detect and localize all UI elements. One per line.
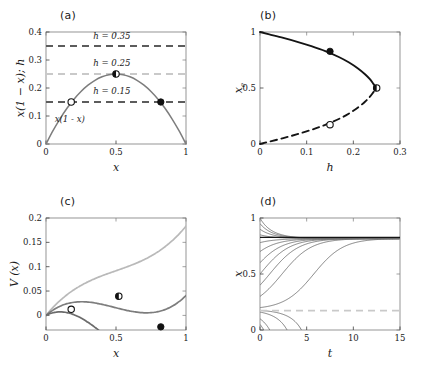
- panel-a: (a) 00.5100.10.20.30.4xx(1 − x); hh = 0.…: [0, 0, 213, 191]
- x-tick-label: 0.2: [347, 147, 361, 157]
- y-tick-label: 1: [251, 27, 256, 37]
- panel-d: (d) 05101500.51tx: [212, 190, 425, 381]
- annotation-2: h = 0.15: [93, 86, 130, 96]
- x-tick-label: 0.1: [300, 147, 314, 157]
- x-axis-label: x: [113, 347, 120, 360]
- trajectory-10: [260, 239, 400, 308]
- y-axis-label: V (x): [8, 261, 21, 287]
- x-tick-label: 1: [183, 147, 188, 157]
- y-axis-label: x(1 − x); h: [14, 59, 27, 118]
- stable-branch-curve: [260, 32, 377, 88]
- y-tick-label: 0: [37, 310, 42, 320]
- y-tick-label: 0.05: [23, 286, 42, 296]
- y-tick-label: 0.2: [28, 83, 42, 93]
- trajectory-8: [260, 239, 400, 286]
- y-tick-label: 1: [251, 213, 256, 223]
- equilibrium-marker-0: [68, 99, 74, 105]
- annotation-1: h = 0.25: [93, 58, 130, 68]
- y-tick-label: 0.3: [28, 55, 42, 65]
- panel-b: (b) 00.10.20.300.51hxe: [212, 0, 425, 191]
- y-tick-label: 0: [251, 325, 256, 335]
- axes-(d): 05101500.51tx: [232, 213, 405, 360]
- panel-b-label: (b): [260, 9, 276, 22]
- panel-d-plot: 05101500.51tx: [212, 190, 425, 381]
- x-tick-label: 0: [257, 147, 262, 157]
- x-tick-label: 0.5: [109, 333, 123, 343]
- y-tick-label: 0: [37, 139, 42, 149]
- y-tick-label: 0.2: [28, 213, 42, 223]
- x-tick-label: 10: [348, 333, 359, 343]
- bifurcation-marker-1: [327, 121, 333, 127]
- panel-c-label: (c): [60, 195, 75, 208]
- x-tick-label: 1: [183, 333, 188, 343]
- unstable-branch-curve: [260, 88, 377, 144]
- y-tick-label: 0.15: [23, 237, 42, 247]
- figure-container: (a) 00.5100.10.20.30.4xx(1 − x); hh = 0.…: [0, 0, 425, 381]
- x-tick-label: 0: [43, 147, 48, 157]
- x-tick-label: 0: [43, 333, 48, 343]
- x-tick-label: 15: [395, 333, 406, 343]
- x-tick-label: 0: [257, 333, 262, 343]
- axes-(a): 00.5100.10.20.30.4xx(1 − x); hh = 0.35h …: [14, 27, 189, 174]
- potential-marker-1: [158, 324, 164, 330]
- potential-marker-0: [68, 306, 74, 312]
- annotation-0: h = 0.35: [93, 31, 130, 41]
- equilibrium-marker-1: [158, 99, 164, 105]
- x-axis-label: x: [113, 161, 120, 174]
- x-axis-label: h: [326, 161, 333, 174]
- panel-d-label: (d): [260, 195, 276, 208]
- panel-a-plot: 00.5100.10.20.30.4xx(1 − x); hh = 0.35h …: [0, 0, 213, 191]
- trajectory-9: [260, 239, 400, 297]
- y-axis-label: x: [232, 270, 245, 277]
- potential-curve-h-0.35: [46, 226, 186, 315]
- axes-(b): 00.10.20.300.51hxe: [232, 27, 407, 174]
- y-tick-label: 0.4: [28, 27, 42, 37]
- parabola-curve: [46, 74, 186, 144]
- y-tick-label: 0.1: [28, 262, 42, 272]
- x-tick-label: 0.5: [109, 147, 123, 157]
- axes-(c): 00.5100.050.10.150.2xV (x): [8, 213, 189, 372]
- bifurcation-marker-0: [327, 48, 333, 54]
- y-axis-label: xe: [232, 83, 247, 93]
- panel-b-plot: 00.10.20.300.51hxe: [212, 0, 425, 191]
- y-tick-label: 0.1: [28, 111, 42, 121]
- trajectory-13: [260, 319, 271, 332]
- x-tick-label: 0.3: [393, 147, 407, 157]
- x-tick-label: 5: [304, 333, 309, 343]
- panel-a-label: (a): [60, 9, 76, 22]
- panel-c-plot: 00.5100.050.10.150.2xV (x): [0, 190, 213, 381]
- annotation-3: x(1 - x): [55, 114, 85, 124]
- y-axis-label-sub: e: [239, 83, 247, 87]
- panel-c: (c) 00.5100.050.10.150.2xV (x): [0, 190, 213, 381]
- trajectory-5: [260, 239, 400, 252]
- x-axis-label: t: [328, 347, 333, 360]
- y-tick-label: 0: [251, 139, 256, 149]
